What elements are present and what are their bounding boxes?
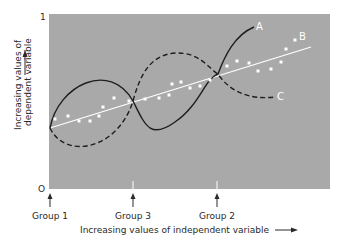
curve-label-b: B xyxy=(299,31,306,42)
svg-text:dependent variable: dependent variable xyxy=(23,38,33,126)
plot-area xyxy=(49,14,330,189)
curve-label-a: A xyxy=(256,21,263,32)
diagram: A B C 1 O Increasing values of dependent… xyxy=(0,0,340,247)
group3-label: Group 3 xyxy=(115,211,151,221)
group2-label: Group 2 xyxy=(199,211,235,221)
arrow-up-icon xyxy=(215,193,220,199)
svg-text:Increasing values of: Increasing values of xyxy=(13,39,23,130)
arrow-up-icon xyxy=(131,193,136,199)
y-tick-1: 1 xyxy=(40,12,46,22)
x-axis-label: Increasing values of independent variabl… xyxy=(80,225,270,235)
origin-label: O xyxy=(38,184,45,194)
arrow-up-icon xyxy=(48,193,53,199)
y-axis-label: Increasing values of dependent variable xyxy=(13,38,33,130)
curve-label-c: C xyxy=(277,91,284,102)
x-arrow-head-icon xyxy=(291,228,298,233)
group1-label: Group 1 xyxy=(32,211,68,221)
